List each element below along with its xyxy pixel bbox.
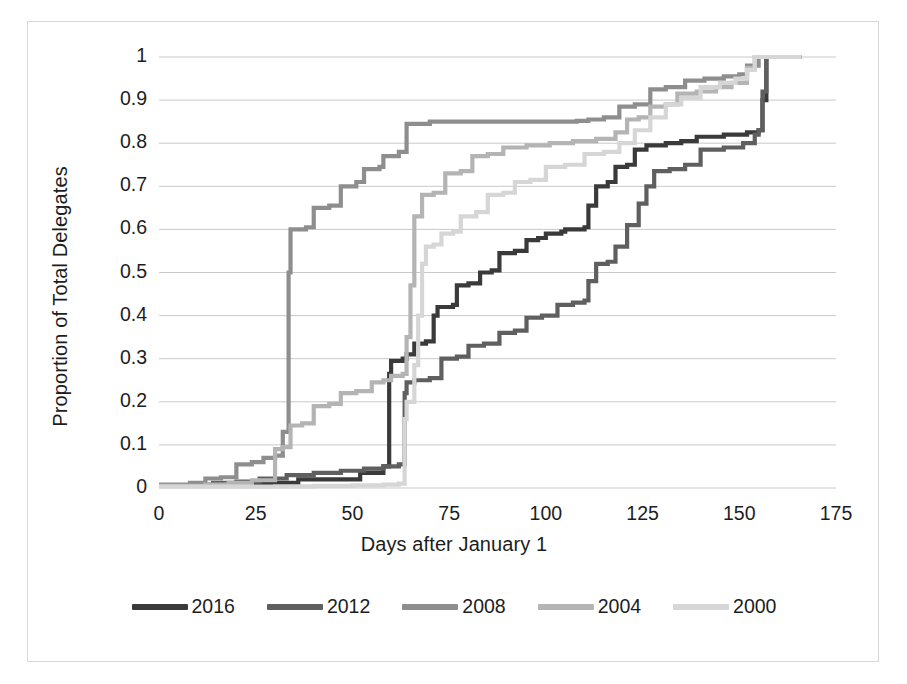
chart-plot-area: Proportion of Total Delegates Days after…: [28, 22, 880, 663]
y-tick-label: 0.1: [87, 432, 147, 455]
x-tick-label: 75: [419, 502, 479, 525]
legend-swatch-icon: [538, 604, 594, 610]
legend-label: 2000: [733, 595, 776, 618]
x-tick-label: 100: [516, 502, 576, 525]
legend-item-2008[interactable]: 2008: [402, 595, 505, 618]
y-tick-label: 0.4: [87, 303, 147, 326]
legend-item-2004[interactable]: 2004: [538, 595, 641, 618]
legend-swatch-icon: [402, 604, 458, 610]
y-tick-label: 0.5: [87, 260, 147, 283]
legend-swatch-icon: [673, 604, 729, 610]
x-tick-label: 150: [709, 502, 769, 525]
y-tick-label: 0.9: [87, 87, 147, 110]
x-tick-label: 175: [806, 502, 866, 525]
legend-item-2016[interactable]: 2016: [132, 595, 235, 618]
y-tick-label: 0.6: [87, 216, 147, 239]
x-tick-label: 50: [322, 502, 382, 525]
y-tick-label: 0.7: [87, 173, 147, 196]
legend-label: 2008: [462, 595, 505, 618]
y-tick-label: 0: [87, 475, 147, 498]
chart-legend: 20162012200820042000: [28, 595, 880, 618]
y-tick-label: 0.2: [87, 389, 147, 412]
legend-item-2000[interactable]: 2000: [673, 595, 776, 618]
x-tick-label: 25: [226, 502, 286, 525]
series-lines: [159, 57, 801, 487]
x-tick-label: 0: [129, 502, 189, 525]
y-tick-label: 0.3: [87, 346, 147, 369]
chart-svg: [28, 22, 880, 663]
y-tick-label: 1: [87, 44, 147, 67]
legend-swatch-icon: [267, 604, 323, 610]
legend-label: 2012: [327, 595, 370, 618]
x-tick-label: 125: [613, 502, 673, 525]
legend-label: 2016: [192, 595, 235, 618]
legend-label: 2004: [598, 595, 641, 618]
chart-frame: Proportion of Total Delegates Days after…: [27, 21, 879, 662]
legend-swatch-icon: [132, 604, 188, 610]
legend-item-2012[interactable]: 2012: [267, 595, 370, 618]
y-tick-label: 0.8: [87, 130, 147, 153]
